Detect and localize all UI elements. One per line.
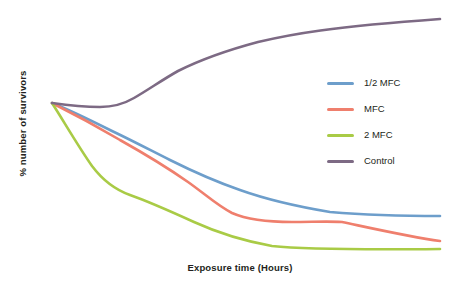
legend-item-control: Control bbox=[327, 148, 445, 174]
y-axis-title: % number of survivors bbox=[17, 54, 28, 194]
legend-item-2-mfc: 2 MFC bbox=[327, 122, 445, 148]
x-axis-title: Exposure time (Hours) bbox=[120, 262, 360, 273]
legend-swatch-icon-control bbox=[327, 160, 354, 163]
legend-swatch-icon-2-mfc bbox=[327, 134, 354, 137]
legend-swatch-icon-half-mfc bbox=[327, 82, 354, 85]
legend-label-control: Control bbox=[364, 156, 395, 166]
legend-item-half-mfc: 1/2 MFC bbox=[327, 70, 445, 96]
chart-legend: 1/2 MFC MFC 2 MFC Control bbox=[327, 70, 445, 174]
legend-swatch-icon-mfc bbox=[327, 108, 354, 111]
line-chart: % number of survivors Exposure time (Hou… bbox=[0, 0, 451, 288]
legend-item-mfc: MFC bbox=[327, 96, 445, 122]
legend-label-mfc: MFC bbox=[364, 104, 385, 114]
legend-label-2-mfc: 2 MFC bbox=[364, 130, 393, 140]
legend-label-half-mfc: 1/2 MFC bbox=[364, 78, 400, 88]
